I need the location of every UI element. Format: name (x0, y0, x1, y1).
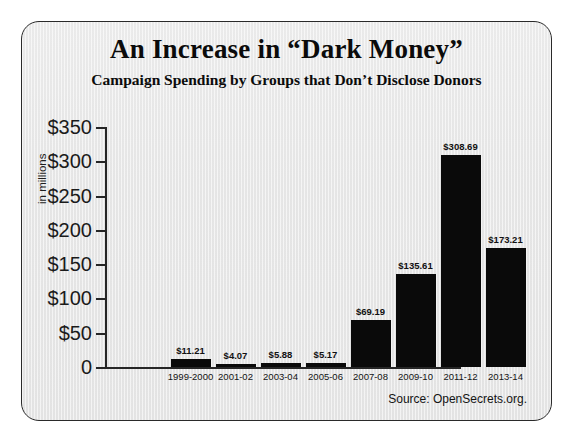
y-tick-mark (96, 230, 106, 232)
bar-value-label: $11.21 (176, 345, 205, 356)
chart-title: An Increase in “Dark Money” (22, 34, 551, 65)
bar[interactable]: $11.21 (171, 359, 211, 367)
bar-value-label: $69.19 (356, 306, 385, 317)
bar[interactable]: $173.21 (486, 248, 526, 367)
y-tick-label: $200 (48, 218, 93, 241)
x-axis-label: 2011-12 (443, 371, 477, 382)
bar[interactable]: $5.88 (261, 363, 301, 367)
bar[interactable]: $69.19 (351, 320, 391, 367)
bar-value-label: $135.61 (398, 260, 432, 271)
y-tick-mark (96, 367, 106, 369)
y-tick-mark (96, 264, 106, 266)
bar[interactable]: $308.69 (441, 155, 481, 367)
y-tick-label: $100 (48, 287, 93, 310)
bar-value-label: $5.88 (269, 349, 293, 360)
y-tick-mark (96, 127, 106, 129)
bar[interactable]: $135.61 (396, 274, 436, 367)
source-note: Source: OpenSecrets.org. (388, 392, 527, 406)
bar-value-label: $4.07 (224, 350, 248, 361)
chart-subtitle: Campaign Spending by Groups that Don’t D… (22, 71, 551, 89)
y-tick-label: $250 (48, 184, 93, 207)
y-tick-mark (96, 298, 106, 300)
y-tick-label: $50 (59, 321, 92, 344)
y-tick-label: $150 (48, 253, 93, 276)
plot-area: 0$50$100$150$200$250$300$350 $11.21$4.07… (105, 127, 461, 367)
y-tick-mark (96, 333, 106, 335)
x-axis-label: 2001-02 (218, 371, 253, 382)
bar[interactable]: $4.07 (216, 364, 256, 367)
x-axis-label: 2009-10 (398, 371, 433, 382)
x-axis-line (105, 367, 461, 369)
bar-value-label: $5.17 (314, 349, 338, 360)
bar-value-label: $173.21 (488, 234, 522, 245)
chart-figure: An Increase in “Dark Money” Campaign Spe… (21, 21, 552, 421)
x-axis-label: 2003-04 (263, 371, 298, 382)
bar[interactable]: $5.17 (306, 363, 346, 367)
x-axis-label: 2005-06 (308, 371, 343, 382)
x-axis-label: 2007-08 (353, 371, 388, 382)
x-axis-label: 1999-2000 (168, 371, 213, 382)
y-tick-label: $350 (48, 116, 93, 139)
y-tick-mark (96, 161, 106, 163)
y-tick-label: $300 (48, 150, 93, 173)
y-tick-mark (96, 196, 106, 198)
bar-value-label: $308.69 (443, 141, 477, 152)
y-axis-title: in millions (36, 154, 48, 205)
x-axis-label: 2013-14 (488, 371, 523, 382)
y-tick-label: 0 (81, 356, 92, 379)
